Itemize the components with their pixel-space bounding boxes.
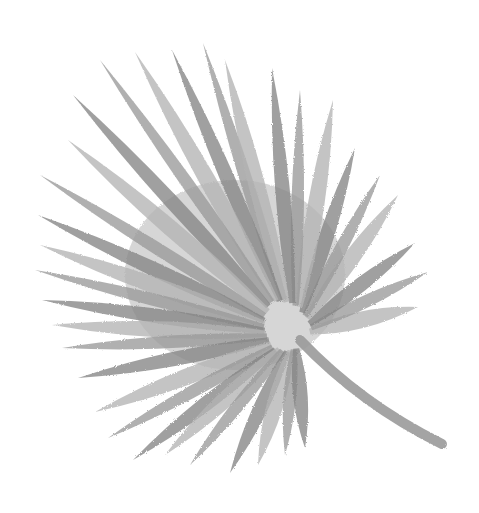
palm-leaflet	[292, 348, 308, 448]
palm-leaf	[35, 43, 442, 473]
palm-leaf-illustration	[0, 0, 479, 513]
leaf-stem	[300, 340, 442, 444]
